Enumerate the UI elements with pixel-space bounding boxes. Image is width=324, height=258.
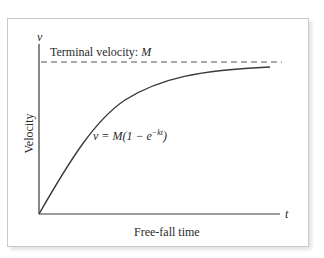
- equation-label: v = M(1 − e−kt): [93, 127, 167, 142]
- asymptote-label: Terminal velocity: M: [50, 46, 151, 58]
- equation-lhs: v = M(1 − e: [93, 129, 152, 143]
- y-axis-label: Velocity: [22, 114, 37, 154]
- asymptote-label-symbol: M: [141, 45, 151, 59]
- equation-rhs: ): [163, 129, 167, 143]
- asymptote-label-text: Terminal velocity:: [50, 45, 141, 59]
- x-axis-symbol: t: [285, 208, 288, 220]
- equation-exponent: −kt: [152, 128, 163, 137]
- y-axis-symbol: v: [37, 31, 42, 43]
- x-axis-label: Free-fall time: [134, 226, 200, 238]
